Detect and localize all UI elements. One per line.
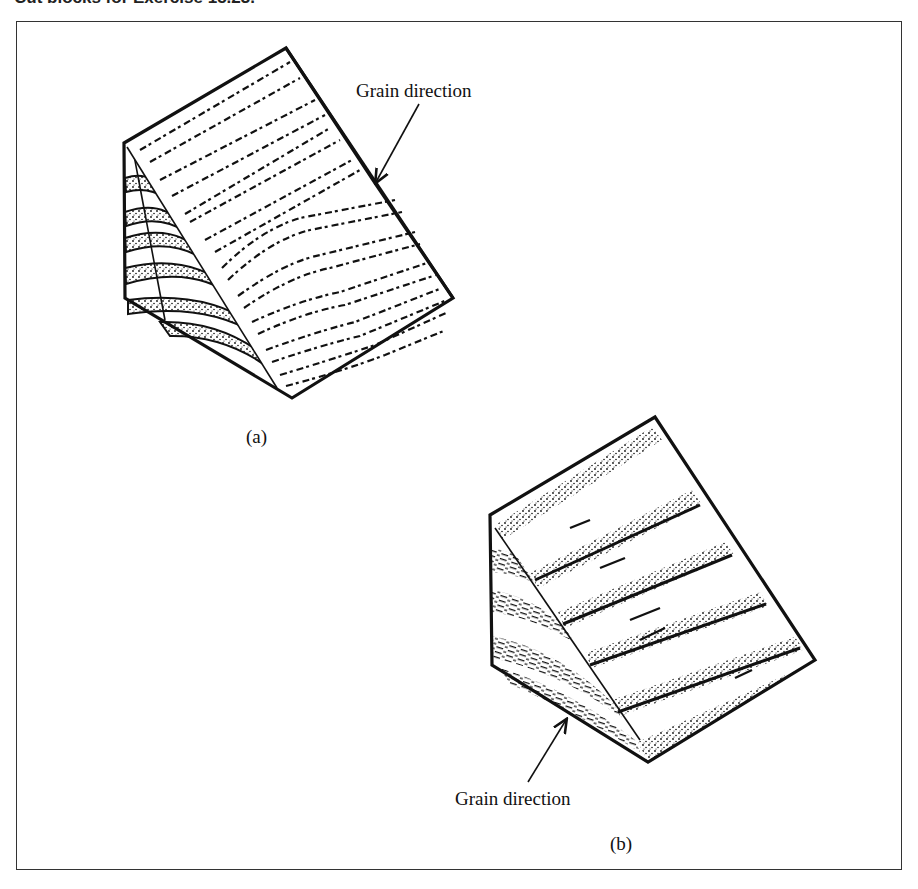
- panel-label-b: (b): [610, 833, 632, 855]
- panel-label-a: (a): [246, 426, 267, 448]
- grain-direction-label-b: Grain direction: [455, 788, 571, 810]
- grain-arrow-b: [528, 720, 566, 782]
- block-b: [490, 417, 815, 782]
- grain-arrow-a: [376, 104, 419, 182]
- grain-direction-label-a: Grain direction: [356, 80, 472, 102]
- wood-blocks-illustration: [0, 0, 918, 889]
